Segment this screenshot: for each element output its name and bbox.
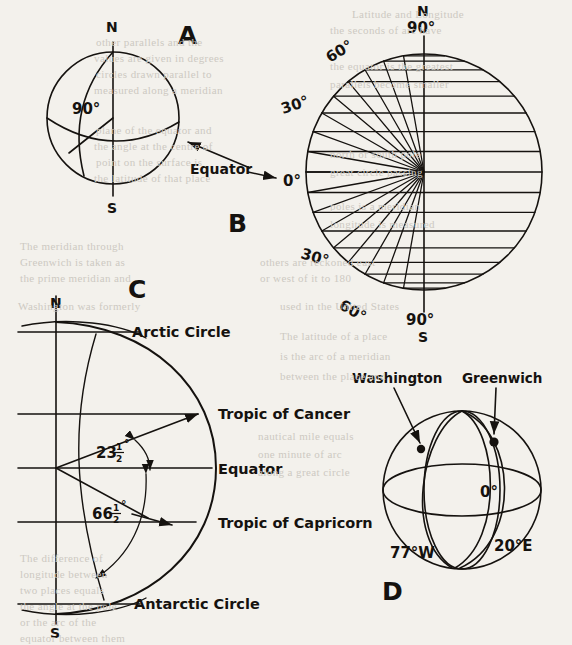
panel-d-longitude-prime-label: 0° [480,483,498,501]
panel-c-angle-cancer-denominator: 2 [116,454,122,464]
panel-c-angle-cancer-whole: 23 [96,444,117,462]
panel-c-angle-cancer-degree: ° [124,437,130,450]
panel-c-angle-polar-numerator: 1 [113,503,119,513]
panel-d-washington-arrow [394,388,420,443]
panel-c-angle-cancer-numerator: 1 [116,442,122,452]
panel-a-north-label: N [106,19,118,35]
panel-d-longitude-west-label: 77°W [390,544,435,562]
panel-c-angle-polar-whole: 66 [92,505,113,523]
panel-c-angle-polar-label: 66 1 2 ° [92,498,127,525]
panel-b-north-60-label: 60° [323,36,357,66]
panel-d-greenwich-arrow [494,388,496,434]
panel-c-angle-polar-degree: ° [121,498,127,511]
panel-a-south-label: S [107,200,117,216]
panel-b-south-30-label: 30° [299,245,331,270]
panel-b-north-label: N [417,3,429,19]
panel-b-north-pole-value: 90° [407,19,435,37]
panel-d-washington-point [417,445,425,453]
panel-d-greenwich-label: Greenwich [462,370,542,386]
panel-b-caption: B [228,209,247,238]
panel-b-south-label: S [418,329,428,345]
panel-c-capricorn-arrow [132,514,172,525]
panel-c-equator-label: Equator [218,461,283,477]
panel-a-caption: A [178,21,198,50]
panel-d-longitude-east-label: 20°E [494,537,533,555]
figure-line-art: A N S 90° Equator B N 90° 60° 30° 0° 30°… [0,0,572,645]
earth-coordinates-figure: Latitude and Longitudethe seconds of arc… [0,0,572,645]
panel-b-north-30-label: 30° [279,92,312,118]
panel-c-caption: C [128,275,146,304]
panel-c-angle-arc-polar [96,474,146,578]
panel-c-tropic-cancer-label: Tropic of Cancer [218,406,351,422]
panel-c-north-label: N [50,295,62,311]
panel-c-antarctic-circle-label: Antarctic Circle [134,596,260,612]
panel-d-equator-ellipse [383,464,541,516]
panel-b-south-pole-value: 90° [406,311,434,329]
panel-a-radius-line [69,118,113,153]
panel-a-equator-label: Equator [190,161,252,177]
panel-d-washington-label: Washington [352,370,442,386]
panel-c-south-label: S [50,625,60,641]
panel-c-tropic-capricorn-label: Tropic of Capricorn [218,515,373,531]
panel-c-arctic-circle-label: Arctic Circle [132,324,231,340]
panel-c-angle-arc-cancer [135,440,150,470]
panel-d-caption: D [382,577,403,606]
panel-b-equator-value: 0° [283,172,301,190]
panel-c-terminator-arc [79,334,104,600]
panel-c-angle-polar-denominator: 2 [113,515,119,525]
panel-a-angle-label: 90° [72,100,100,118]
panel-b-south-60-label: 60° [336,296,370,326]
panel-c-angle-cancer-label: 23 1 2 ° [96,437,130,464]
panel-d-greenwich-point [489,437,498,446]
